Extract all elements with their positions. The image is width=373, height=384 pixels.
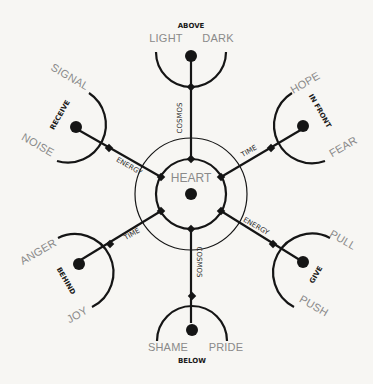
pole-pride: PRIDE bbox=[209, 341, 244, 353]
pole-pull: PULL bbox=[328, 227, 359, 252]
node-give bbox=[297, 256, 309, 268]
direction-in-front: IN FRONT bbox=[307, 93, 333, 130]
node-behind bbox=[73, 258, 85, 270]
heart-compass-diagram: HEART ABOVE BELOW RECEIVE IN FRONT BEHIN… bbox=[0, 0, 373, 384]
pole-noise: NOISE bbox=[20, 131, 57, 159]
pole-light: LIGHT bbox=[149, 32, 182, 44]
pole-dark: DARK bbox=[202, 32, 234, 44]
direction-receive: RECEIVE bbox=[49, 99, 72, 132]
heart-label: HEART bbox=[171, 171, 212, 185]
heart-dot bbox=[185, 188, 197, 200]
direction-above: ABOVE bbox=[178, 22, 205, 30]
pole-shame: SHAME bbox=[148, 341, 188, 353]
node-above bbox=[185, 50, 197, 62]
node-below bbox=[186, 324, 198, 336]
axis-time-left: TIME bbox=[122, 227, 141, 243]
axis-cosmos-bottom: COSMOS bbox=[195, 247, 203, 278]
pole-fear: FEAR bbox=[327, 134, 359, 159]
pole-anger: ANGER bbox=[18, 236, 59, 266]
axis-cosmos-top: COSMOS bbox=[176, 102, 184, 133]
spoke-in-front bbox=[221, 128, 304, 177]
pole-joy: JOY bbox=[64, 304, 89, 326]
spoke-give bbox=[221, 211, 303, 262]
pole-push: PUSH bbox=[297, 292, 330, 318]
spoke-receive bbox=[75, 128, 161, 177]
direction-behind: BEHIND bbox=[55, 266, 77, 296]
direction-give: GIVE bbox=[308, 265, 324, 285]
spoke-behind bbox=[79, 211, 161, 261]
direction-below: BELOW bbox=[178, 357, 206, 365]
node-receive bbox=[70, 121, 82, 133]
node-in-front bbox=[297, 120, 309, 132]
pole-signal: SIGNAL bbox=[49, 61, 91, 92]
pole-hope: HOPE bbox=[288, 69, 322, 95]
